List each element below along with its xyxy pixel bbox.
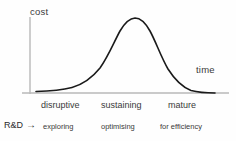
cost-curve <box>36 18 215 93</box>
right-arrow-icon: → <box>26 120 36 130</box>
phase-sublabel-for-efficiency: for efficiency <box>160 122 202 131</box>
phase-sublabel-exploring: exploring <box>43 122 73 131</box>
phase-label-sustaining: sustaining <box>101 100 142 110</box>
rd-row: R&D → <box>4 120 36 130</box>
rd-label: R&D <box>4 120 23 130</box>
phase-label-disruptive: disruptive <box>41 100 80 110</box>
phase-label-mature: mature <box>168 100 196 110</box>
technology-lifecycle-diagram: cost time disruptive sustaining mature e… <box>0 0 236 141</box>
phase-sublabel-optimising: optimising <box>101 122 135 131</box>
